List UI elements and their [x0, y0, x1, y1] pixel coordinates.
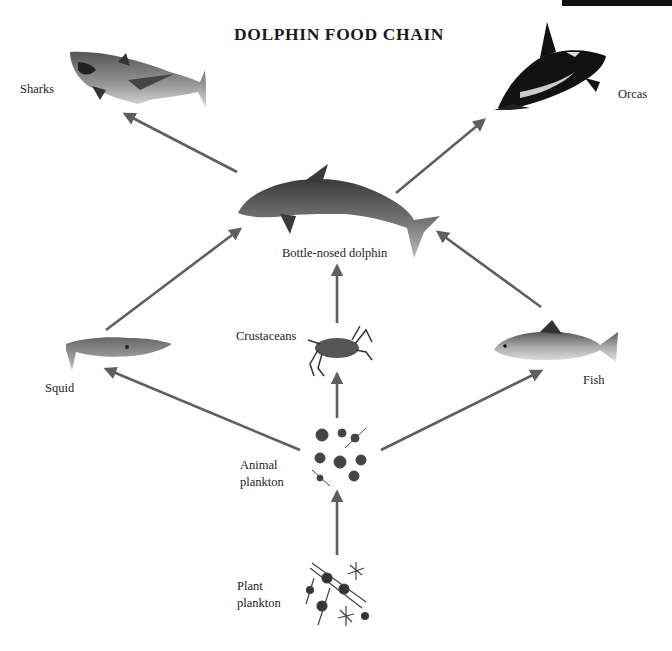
food-chain-diagram: [0, 0, 672, 651]
crab-icon: [308, 326, 372, 376]
fish-icon: [494, 320, 618, 362]
dolphin-icon: [238, 164, 440, 258]
label-plant-plankton-1: Plant: [237, 578, 263, 595]
orca-icon: [494, 22, 606, 110]
shark-icon: [70, 52, 206, 108]
squid-icon: [66, 337, 172, 370]
arrow-plankton-to-squid: [106, 369, 300, 450]
plant-plankton-icon: [306, 562, 369, 626]
arrow-dolphin-to-sharks: [125, 114, 237, 172]
arrow-squid-to-dolphin: [106, 229, 240, 330]
label-orcas: Orcas: [618, 86, 647, 103]
label-squid: Squid: [45, 380, 74, 397]
label-sharks: Sharks: [20, 81, 54, 98]
label-animal-plankton-1: Animal: [240, 457, 278, 474]
arrow-plankton-to-fish: [381, 371, 541, 450]
arrow-dolphin-to-orcas: [396, 120, 484, 193]
label-plant-plankton-2: plankton: [237, 595, 281, 612]
label-crustaceans: Crustaceans: [236, 328, 296, 345]
label-dolphin: Bottle-nosed dolphin: [282, 245, 387, 262]
animal-plankton-icon: [312, 428, 366, 486]
arrow-fish-to-dolphin: [438, 232, 541, 307]
label-fish: Fish: [583, 372, 605, 389]
label-animal-plankton-2: plankton: [240, 474, 284, 491]
